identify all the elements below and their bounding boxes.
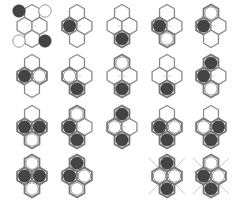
hex-cell-left-black-stone <box>63 20 75 32</box>
hex-cell-bottom-black-stone <box>205 134 217 146</box>
hex-cell-left-black-stone <box>153 20 165 32</box>
hex-cell-left-black-stone <box>153 121 165 133</box>
hex-cluster <box>196 55 226 98</box>
hex-cell-left-white-stone <box>108 121 120 133</box>
hex-cell-bottom-white-stone <box>205 83 217 95</box>
hex-cell-bottom-white-stone <box>26 134 38 146</box>
hex-cell-left-white-stone <box>153 170 165 182</box>
hex-cell-right-black-stone <box>33 121 45 133</box>
hex-cell-bottom <box>25 80 40 97</box>
hex-cell-left-black-stone <box>197 170 209 182</box>
hex-cluster <box>107 55 137 98</box>
hex-cell-right-white-stone <box>212 170 224 182</box>
hex-cell-top-white-stone <box>205 157 217 169</box>
hex-cluster <box>62 155 92 198</box>
hex-cell-top-black-stone <box>205 57 217 69</box>
hex-cluster <box>152 106 182 149</box>
hex-cell-left-black-stone <box>197 20 209 32</box>
hex-cell-bottom-black-stone <box>205 183 217 195</box>
hex-cluster <box>193 155 229 198</box>
hex-cluster <box>152 5 182 48</box>
corner-top-right-white-stone <box>39 5 51 17</box>
hex-cluster <box>62 106 92 149</box>
hex-cell-top-white-stone <box>116 57 128 69</box>
hex-cell-bottom-black-stone <box>161 83 173 95</box>
hex-cell-left-black-stone <box>63 121 75 133</box>
hex-cell-right-white-stone <box>33 70 45 82</box>
hex-cell-right-black-stone <box>33 170 45 182</box>
hex-pattern-diagram <box>0 0 235 202</box>
corner-top-left-black-stone <box>13 5 25 17</box>
hex-cluster <box>17 106 47 149</box>
hex-cluster <box>13 5 51 48</box>
hex-cell-bottom-black-stone <box>71 83 83 95</box>
hex-cell-right-white-stone <box>78 170 90 182</box>
hex-cluster <box>62 5 92 48</box>
hex-cluster <box>149 155 185 198</box>
hex-cell-top-white-stone <box>205 7 217 19</box>
hex-cell-top-white-stone <box>71 108 83 120</box>
hex-cell-bottom-black-stone <box>161 134 173 146</box>
hex-cell-left-black-stone <box>63 170 75 182</box>
hex-cell-bottom-white-stone <box>26 183 38 195</box>
hex-cluster <box>196 106 226 149</box>
hex-cell-right-white-stone <box>168 121 180 133</box>
hex-cell-right-black-stone <box>212 121 224 133</box>
hex-cluster <box>62 55 92 98</box>
hex-cell-left-black-stone <box>197 70 209 82</box>
hex-cell-bottom <box>70 30 85 47</box>
corner-bottom-left-white-stone <box>13 35 25 47</box>
hex-cell-bottom-black-stone <box>71 134 83 146</box>
corner-bottom-right-black-stone <box>39 35 51 47</box>
hex-cluster <box>107 106 137 149</box>
hex-cluster <box>17 155 47 198</box>
hex-cell-bottom-black-stone <box>116 33 128 45</box>
hex-cluster <box>196 5 226 48</box>
hex-cell-left-black-stone <box>18 70 30 82</box>
hex-cell-bottom <box>25 30 40 47</box>
hex-cell-bottom <box>204 30 219 47</box>
hex-cell-bottom-white-stone <box>71 183 83 195</box>
hex-cell-left-black-stone <box>18 170 30 182</box>
hex-cell-bottom-black-stone <box>116 134 128 146</box>
hex-cell-bottom-black-stone <box>161 183 173 195</box>
hex-cell-left-white-stone <box>197 121 209 133</box>
hex-cluster <box>107 5 137 48</box>
hex-cell-top-black-stone <box>116 108 128 120</box>
hex-cell-top-black-stone <box>71 157 83 169</box>
hex-cell-right-white-stone <box>168 170 180 182</box>
hex-cluster <box>17 55 47 98</box>
hex-cell-left-white-stone <box>63 70 75 82</box>
hex-cluster <box>152 55 182 98</box>
hex-cell-bottom-white-stone <box>161 33 173 45</box>
hex-cell-top-white-stone <box>26 157 38 169</box>
hex-cell-top-black-stone <box>161 157 173 169</box>
hex-cell-bottom-black-stone <box>116 83 128 95</box>
hex-cell-left-black-stone <box>18 121 30 133</box>
